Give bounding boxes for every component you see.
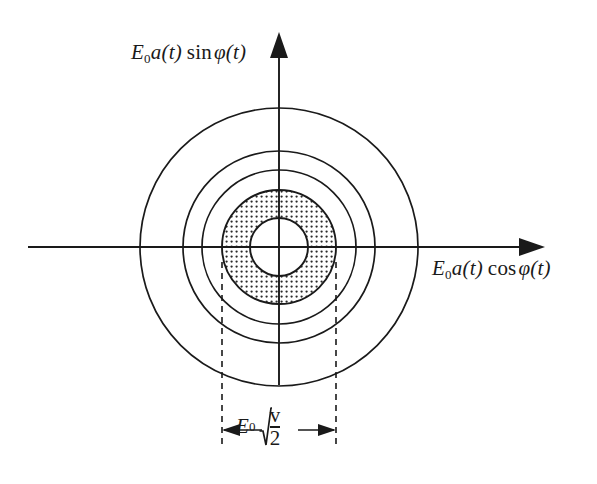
x-label-amplitude: a(t): [452, 256, 483, 280]
measure-label-E: E: [236, 416, 249, 437]
radical-group: v 2: [259, 405, 281, 449]
y-label-subscript: 0: [144, 51, 151, 66]
y-label-phase: φ(t): [214, 40, 246, 64]
x-label-trig: cos: [488, 256, 517, 280]
x-label-E: E: [432, 256, 445, 280]
x-axis-label: E0a(t)cosφ(t): [432, 258, 551, 281]
y-label-amplitude: a(t): [151, 40, 182, 64]
shaded-annulus: [0, 0, 597, 484]
y-axis-label: E0a(t)sinφ(t): [131, 42, 246, 65]
y-label-E: E: [131, 40, 144, 64]
x-label-subscript: 0: [445, 267, 452, 282]
figure-canvas: [0, 0, 597, 484]
y-label-trig: sin: [187, 40, 212, 64]
x-label-phase: φ(t): [518, 256, 550, 280]
measure-label-subscript: 0: [249, 420, 256, 433]
radical-sign-icon: [259, 405, 270, 449]
figure-root: E0a(t)sinφ(t) E0a(t)cosφ(t) E0 v 2: [0, 0, 597, 484]
measurement-label: E0 v 2: [236, 405, 280, 449]
